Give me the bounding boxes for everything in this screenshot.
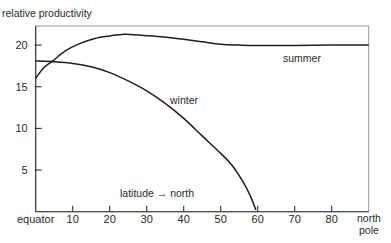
- x-tick-label: 70: [289, 213, 301, 225]
- y-axis-label: relative productivity: [2, 7, 93, 19]
- x-axis-ticks: 1020304050607080: [67, 206, 338, 225]
- x-tick-label: 30: [141, 213, 153, 225]
- x-tick-label: 50: [215, 213, 227, 225]
- equator-label: equator: [17, 213, 55, 225]
- y-tick-label: 15: [15, 81, 27, 93]
- data-series: summerwinter: [36, 34, 369, 210]
- y-tick-label: 5: [22, 164, 28, 176]
- productivity-chart: 5101520 1020304050607080 summerwinter re…: [0, 0, 391, 243]
- north-pole-label-line1: north: [357, 212, 381, 224]
- north-pole-label-line2: pole: [359, 224, 379, 236]
- x-tick-label: 80: [326, 213, 338, 225]
- x-axis-label: latitude → north: [120, 187, 194, 199]
- y-axis-ticks: 5101520: [15, 39, 41, 176]
- summer-series-label: summer: [283, 52, 321, 64]
- x-tick-label: 40: [178, 213, 190, 225]
- x-tick-label: 60: [252, 213, 264, 225]
- x-tick-label: 20: [104, 213, 116, 225]
- y-tick-label: 20: [15, 39, 27, 51]
- y-tick-label: 10: [15, 122, 27, 134]
- x-tick-label: 10: [67, 213, 79, 225]
- winter-series-label: winter: [169, 94, 199, 106]
